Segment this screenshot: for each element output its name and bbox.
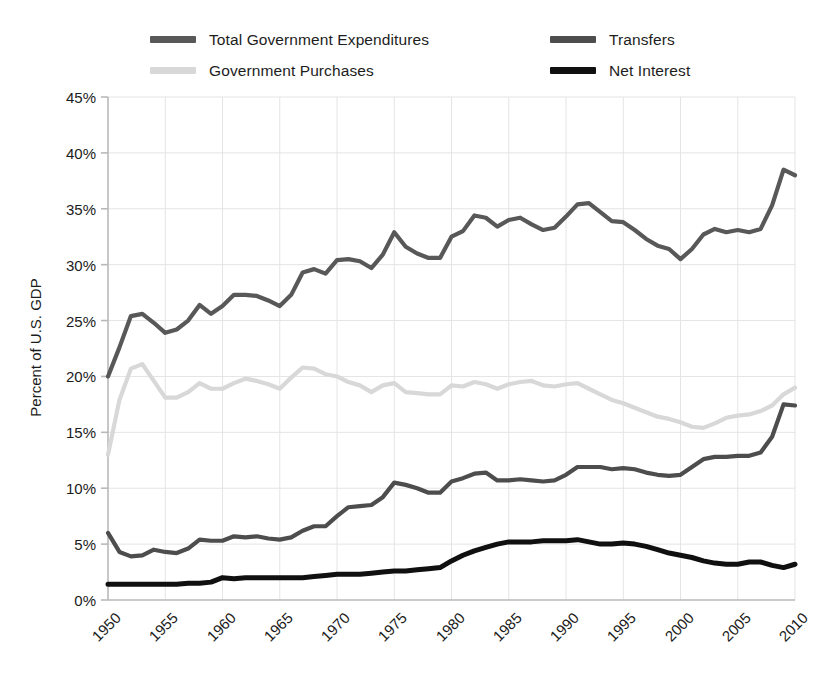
chart-plot-area	[0, 0, 835, 676]
chart-figure: Total Government ExpendituresGovernment …	[0, 0, 835, 676]
